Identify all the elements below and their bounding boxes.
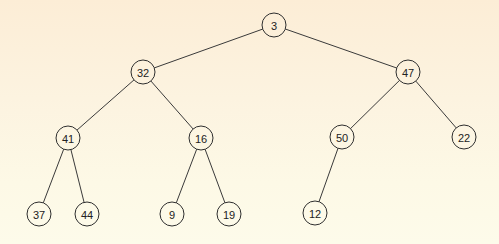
node-label: 41 (62, 133, 74, 145)
node-label: 32 (137, 67, 149, 79)
edge-16-9 (176, 149, 196, 203)
edge-32-16 (151, 81, 193, 129)
edge-50-12 (319, 148, 338, 201)
node-label: 22 (458, 132, 470, 144)
tree-node-41: 41 (56, 126, 80, 150)
tree-node-3: 3 (262, 13, 286, 37)
tree-node-44: 44 (75, 202, 99, 226)
edge-41-37 (43, 149, 63, 203)
node-label: 12 (309, 208, 321, 220)
node-label: 19 (223, 209, 235, 221)
tree-edges (43, 29, 456, 203)
edge-47-22 (416, 81, 456, 128)
node-label: 3 (271, 20, 277, 32)
tree-node-16: 16 (189, 126, 213, 150)
node-label: 44 (81, 209, 93, 221)
tree-node-19: 19 (217, 202, 241, 226)
node-label: 50 (336, 132, 348, 144)
tree-node-32: 32 (131, 60, 155, 84)
node-label: 37 (33, 209, 45, 221)
edge-47-50 (351, 80, 400, 128)
tree-node-12: 12 (303, 201, 327, 225)
edge-16-19 (205, 149, 225, 202)
edge-41-44 (71, 150, 84, 203)
edge-3-47 (285, 29, 396, 68)
tree-node-22: 22 (452, 125, 476, 149)
node-label: 47 (402, 67, 414, 79)
edge-32-41 (77, 80, 134, 130)
tree-node-9: 9 (160, 202, 184, 226)
edge-3-32 (154, 29, 262, 68)
binary-tree-diagram: 3324741165022374491912 (0, 0, 499, 244)
node-label: 9 (169, 209, 175, 221)
node-label: 16 (195, 133, 207, 145)
tree-node-47: 47 (396, 60, 420, 84)
tree-node-50: 50 (330, 125, 354, 149)
tree-node-37: 37 (27, 202, 51, 226)
tree-nodes: 3324741165022374491912 (27, 13, 476, 226)
tree-diagram-canvas: 3324741165022374491912 (0, 0, 499, 244)
